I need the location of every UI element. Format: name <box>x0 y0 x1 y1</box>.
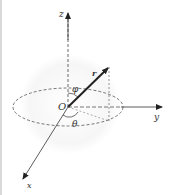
x-axis-label: x <box>27 181 32 190</box>
y-axis-label: y <box>153 112 160 122</box>
origin-label: O <box>58 101 66 112</box>
phi-label: φ <box>72 84 79 94</box>
theta-label: θ <box>72 119 78 129</box>
z-axis-label: z <box>58 9 64 19</box>
diagram-svg: z y x O r φ θ <box>0 0 171 195</box>
spherical-coordinates-diagram: z y x O r φ θ <box>0 0 171 195</box>
